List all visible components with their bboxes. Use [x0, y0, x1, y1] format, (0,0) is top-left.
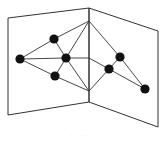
book-graph-diagram — [0, 0, 165, 142]
edges — [20, 21, 145, 91]
pages — [8, 8, 158, 127]
node-B — [49, 34, 58, 43]
node-G — [140, 84, 149, 93]
edge-F-G — [109, 69, 145, 89]
node-E — [115, 52, 124, 61]
node-C — [61, 53, 70, 62]
edge-A-D — [20, 59, 55, 76]
node-A — [15, 54, 24, 63]
edge-A-C — [20, 58, 66, 59]
edge-A-B — [20, 39, 54, 59]
node-D — [50, 71, 59, 80]
node-F — [104, 64, 113, 73]
nodes — [15, 34, 149, 93]
right-page — [89, 8, 158, 127]
edge-E-G — [120, 57, 145, 89]
caption: · · · · · — [70, 132, 93, 138]
edge-S1-E — [89, 21, 120, 57]
